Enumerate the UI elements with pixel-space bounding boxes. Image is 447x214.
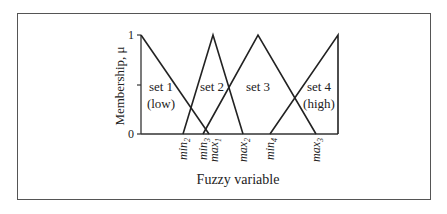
set-4-label: set 4 (307, 79, 332, 94)
y-tick-0: 0 (128, 127, 134, 141)
svg-text:min2: min2 (176, 138, 192, 160)
set-1-sublabel: (low) (147, 96, 175, 111)
x-marker-min2: min2 (176, 138, 192, 160)
set-3-label: set 3 (246, 79, 270, 94)
set-1-label: set 1 (149, 79, 173, 94)
svg-text:max3: max3 (309, 138, 325, 162)
set-2-label: set 2 (200, 79, 224, 94)
fuzzy-membership-diagram: 1 0 Membership, μ set 1 (low) set 2 set … (0, 0, 447, 214)
x-axis-label: Fuzzy variable (197, 172, 280, 187)
set-4-sublabel: (high) (303, 96, 335, 111)
svg-text:min4: min4 (263, 138, 279, 160)
x-marker-max3: max3 (309, 138, 325, 162)
x-marker-max2: max2 (236, 138, 252, 162)
y-tick-1: 1 (128, 28, 134, 42)
svg-text:max2: max2 (236, 138, 252, 162)
y-axis-label: Membership, μ (112, 46, 127, 125)
x-marker-min4: min4 (263, 138, 279, 160)
